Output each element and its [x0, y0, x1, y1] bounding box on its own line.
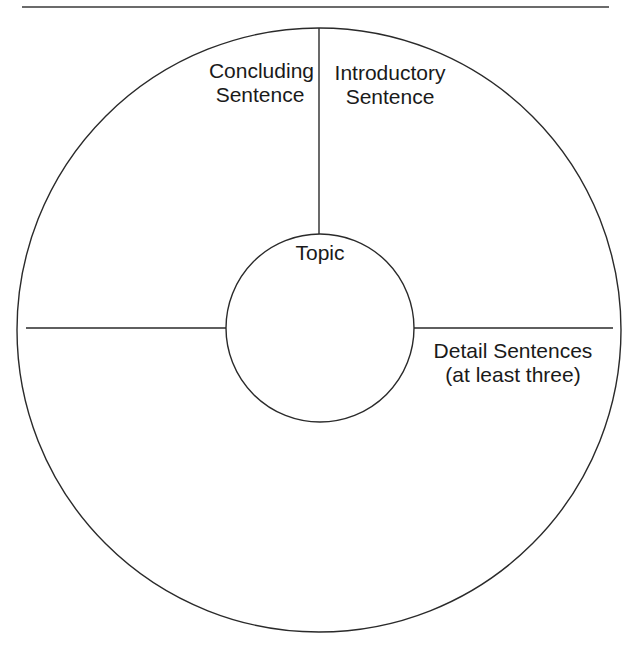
section-introductory-label: Introductory Sentence [326, 61, 454, 109]
topic-label: Topic [270, 241, 370, 265]
paragraph-wheel-diagram [0, 0, 628, 653]
concluding-line-2: Sentence [206, 83, 314, 107]
section-concluding-label: Concluding Sentence [206, 59, 314, 107]
introductory-line-1: Introductory [326, 61, 454, 85]
detail-line-2: (at least three) [418, 363, 608, 387]
detail-line-1: Detail Sentences [418, 339, 608, 363]
section-detail-label: Detail Sentences (at least three) [418, 339, 608, 387]
concluding-line-1: Concluding [206, 59, 314, 83]
introductory-line-2: Sentence [326, 85, 454, 109]
